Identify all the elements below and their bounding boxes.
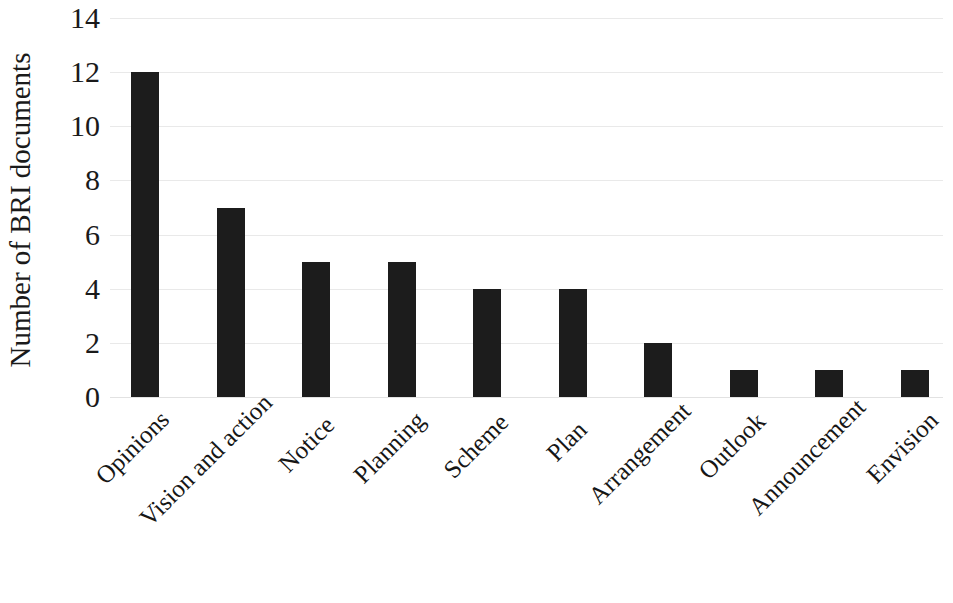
plot-area [110, 18, 943, 397]
x-axis-tick-label: Notice [274, 412, 339, 477]
bar [644, 343, 672, 397]
y-axis-tick-label: 2 [30, 328, 100, 358]
y-axis-tick-label: 8 [30, 165, 100, 195]
bar [730, 370, 758, 397]
y-axis-tick-label: 4 [30, 274, 100, 304]
bar [473, 289, 501, 397]
gridline [110, 397, 943, 398]
x-axis-tick-label: Outlook [694, 409, 770, 485]
x-axis-tick-label: Arrangement [584, 398, 695, 509]
y-axis-tick-label: 6 [30, 220, 100, 250]
bar [901, 370, 929, 397]
x-axis-tick-label: Envision [862, 407, 943, 488]
x-axis-tick-label: Opinions [91, 407, 174, 490]
bar [388, 262, 416, 397]
bar [559, 289, 587, 397]
y-axis-tick-label: 0 [30, 382, 100, 412]
x-axis-tick-label: Announcement [744, 394, 870, 520]
bar [131, 72, 159, 397]
gridline [110, 180, 943, 181]
y-axis-tick-label: 14 [30, 3, 100, 33]
gridline [110, 72, 943, 73]
x-axis-tick-label: Scheme [439, 409, 513, 483]
bar-chart: Number of BRI documents 02468101214 Opin… [0, 0, 953, 603]
y-axis-tick-label: 10 [30, 111, 100, 141]
bar [217, 208, 245, 398]
gridline [110, 126, 943, 127]
y-axis-tick-label: 12 [30, 57, 100, 87]
x-axis-tick-label: Plan [542, 416, 591, 465]
gridline [110, 18, 943, 19]
x-axis-tick-label: Planning [349, 407, 430, 488]
bar [815, 370, 843, 397]
bar [302, 262, 330, 397]
